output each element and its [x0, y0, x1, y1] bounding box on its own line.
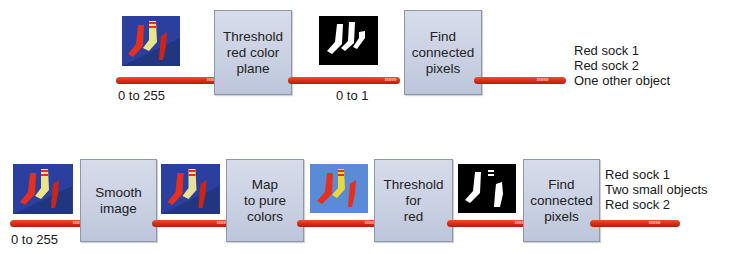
chevrons-icon: ››››››› [536, 77, 548, 84]
socks-binary-icon [458, 164, 516, 213]
top-arrow-3: ››››››› [474, 77, 566, 84]
chevrons-icon: ››››››› [384, 77, 396, 84]
bottom-arrow-4: ››››››› [447, 220, 530, 227]
top-step-find-connected-pixels: Find connected pixels [404, 10, 482, 95]
bottom-arrow-5: ››››››› [590, 220, 680, 227]
socks-icon [161, 164, 220, 214]
top-results: Red sock 1 Red sock 2 One other object [574, 43, 670, 88]
socks-icon [13, 164, 73, 214]
top-binary-range-label: 0 to 1 [336, 88, 369, 103]
bottom-arrow-1: ››››››› [10, 220, 88, 227]
top-arrow-1: ››››››› [116, 77, 222, 84]
bottom-smoothed-image [161, 164, 220, 214]
bottom-arrow-2: ››››››› [152, 220, 232, 227]
socks-icon [122, 16, 180, 66]
bottom-step-map-pure-colors: Map to pure colors [226, 159, 304, 242]
bottom-step-find-connected-pixels: Find connected pixels [523, 159, 600, 242]
bottom-binary-image [458, 164, 516, 213]
top-input-range-label: 0 to 255 [118, 88, 165, 103]
bottom-pure-color-image [310, 164, 368, 213]
top-binary-image [319, 16, 378, 65]
top-arrow-2: ››››››› [288, 77, 400, 84]
top-input-color-image [122, 16, 180, 66]
top-step-threshold-red-plane: Threshold red color plane [214, 10, 292, 95]
bottom-input-range-label: 0 to 255 [11, 232, 58, 247]
bottom-step-smooth-image: Smooth image [80, 159, 157, 242]
bottom-step-threshold-red: Threshold for red [374, 159, 453, 242]
bottom-arrow-3: ››››››› [297, 220, 380, 227]
socks-binary-icon [319, 16, 378, 65]
chevrons-icon: ››››››› [648, 220, 660, 227]
socks-icon [310, 164, 368, 213]
bottom-input-color-image [13, 164, 73, 214]
bottom-results: Red sock 1 Two small objects Red sock 2 [605, 167, 708, 212]
